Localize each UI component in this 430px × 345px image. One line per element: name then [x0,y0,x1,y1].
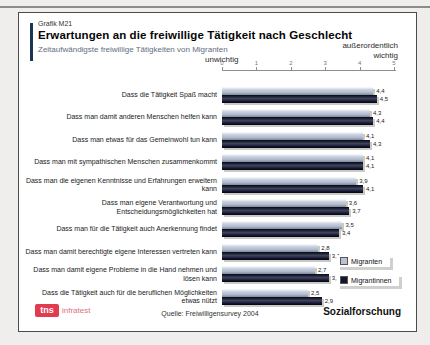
bar-migranten [222,154,363,162]
header-accent-bar [30,23,33,61]
x-axis-tick-label: 4 [355,60,365,66]
legend-label-migrantinnen: Migrantinnen [351,277,391,284]
legend-item-migranten: Migranten [337,255,390,267]
bar-value-label: 4,1 [366,154,374,162]
bar-migrantinnen [222,162,363,170]
bar-value-label: 3,4 [342,229,350,237]
bar-migranten [222,109,370,117]
scan-page-edge [0,6,430,8]
bar-value-label: 4,5 [380,95,388,103]
tns-logo-box: tns [35,304,59,317]
slide-frame: Grafik M21 Erwartungen an die freiwillig… [18,12,417,332]
x-axis-tick-label: 5 [389,60,399,66]
bar-value-label: 2,9 [325,297,333,305]
bar-migranten [222,199,346,207]
category-label: Dass man eigene Verantwortung und Entsch… [25,199,217,216]
bar-migrantinnen [222,117,373,125]
chart-subtitle: Zeitaufwändigste freiwillige Tätigkeiten… [38,45,228,54]
bar-migranten [222,221,342,229]
graph-id: Grafik M21 [38,20,72,27]
bar-migranten [222,266,315,274]
bar-value-label: 4,1 [366,185,374,193]
x-axis-tick-label: 2 [286,60,296,66]
axis-label-wichtig: außerordentlich wichtig [342,41,398,60]
bar-value-label: 3,6 [349,199,357,207]
bar-value-label: 3,5 [345,221,353,229]
source-note: Quelle: Freiwilligensurvey 2004 [130,310,290,317]
axis-label-wichtig-line2: wichtig [342,51,398,61]
bar-migrantinnen [222,297,322,305]
bar-migranten [222,87,373,95]
bar-value-label: 4,1 [366,132,374,140]
bar-value-label: 2,7 [318,266,326,274]
bar-migrantinnen [222,140,370,148]
bar-value-label: 4,3 [373,140,381,148]
bar-value-label: 3,9 [359,177,367,185]
legend-label-migranten: Migranten [351,258,382,265]
bar-migranten [222,177,356,185]
category-label: Dass die Tätigkeit auch für die beruflic… [25,288,217,305]
bar-migrantinnen [222,185,363,193]
x-axis-tick-mark [394,67,395,70]
bar-value-label: 4,4 [376,117,384,125]
x-axis-tick-mark [256,67,257,70]
x-axis-tick-mark [291,67,292,70]
bar-migrantinnen [222,274,329,282]
x-axis-tick-label: 0 [217,60,227,66]
category-label: Dass man etwas für das Gemeinwohl tun ka… [25,136,217,145]
chart-title: Erwartungen an die freiwillige Tätigkeit… [38,29,352,41]
x-axis-tick-mark [222,67,223,70]
bar-migrantinnen [222,207,349,215]
x-axis-tick-label: 1 [251,60,261,66]
category-label: Dass man mit sympathischen Menschen zusa… [25,158,217,167]
tns-infratest-logo: tns infratest [35,304,90,317]
category-label: Dass man damit anderen Menschen helfen k… [25,113,217,122]
bar-value-label: 4,3 [373,109,381,117]
infratest-logo-text: infratest [62,306,90,315]
category-label: Dass man die eigenen Kenntnisse und Erfa… [25,176,217,193]
bar-migranten [222,244,318,252]
legend-item-migrantinnen: Migrantinnen [337,274,399,286]
axis-label-wichtig-line1: außerordentlich [342,41,398,51]
footer-division-label: Sozialforschung [323,306,401,317]
bar-value-label: 4,1 [366,162,374,170]
bar-migrantinnen [222,95,377,103]
bar-migranten [222,289,308,297]
category-label: Dass die Tätigkeit Spaß macht [25,91,217,100]
legend-swatch-migranten [340,257,348,265]
category-label: Dass man damit berechtigte eigene Intere… [25,248,217,257]
bar-migrantinnen [222,229,339,237]
bar-value-label: 4,4 [376,87,384,95]
category-label: Dass man damit eigene Probleme in die Ha… [25,266,217,283]
x-axis-tick-mark [360,67,361,70]
legend-swatch-migrantinnen [340,276,348,284]
bar-value-label: 3,7 [352,207,360,215]
bar-migrantinnen [222,252,329,260]
category-label: Dass man für die Tätigkeit auch Anerkenn… [25,225,217,234]
bar-value-label: 2,8 [321,244,329,252]
bar-value-label: 2,5 [311,289,319,297]
x-axis-line [222,70,396,71]
x-axis-tick-mark [325,67,326,70]
bar-migranten [222,132,363,140]
x-axis-tick-label: 3 [320,60,330,66]
